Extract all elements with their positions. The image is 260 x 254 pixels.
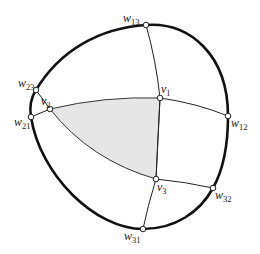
shaded-triangle xyxy=(50,98,160,179)
label-w32: w32 xyxy=(215,188,232,204)
node-w31 xyxy=(140,226,146,232)
label-w31: w31 xyxy=(124,229,141,245)
label-v1: v1 xyxy=(161,82,171,98)
label-w13: w13 xyxy=(123,11,140,27)
label-v3: v3 xyxy=(157,180,167,196)
node-w12 xyxy=(225,113,231,119)
edge-v3-w31 xyxy=(143,179,156,229)
node-w21 xyxy=(28,114,34,120)
label-w12: w12 xyxy=(231,116,248,132)
label-w23: w23 xyxy=(18,76,35,92)
edge-v1-w12 xyxy=(160,98,228,116)
node-w13 xyxy=(143,22,149,28)
node-v1 xyxy=(157,95,163,101)
edge-w13-v1 xyxy=(146,25,160,98)
spherical-triangle-diagram: w13 v1 w12 w23 v2 w21 v3 w32 w31 xyxy=(0,0,260,254)
label-v2: v2 xyxy=(41,94,51,110)
